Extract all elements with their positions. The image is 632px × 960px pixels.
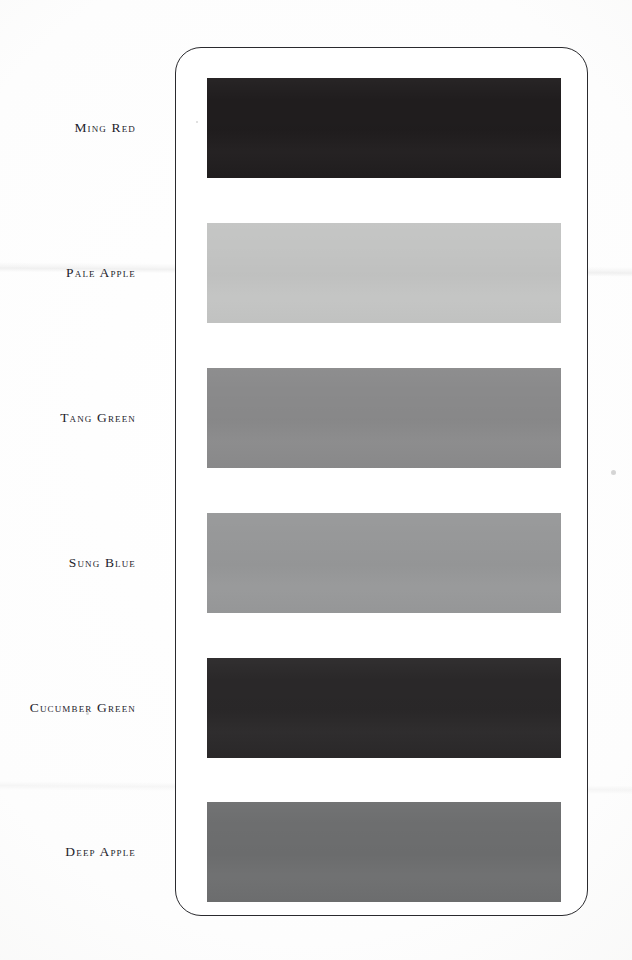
swatch-label: Deep Apple [0,802,136,902]
swatch-color-chip [207,368,561,468]
swatch-row: Sung Blue [0,513,632,613]
swatch-row: Pale Apple [0,223,632,323]
swatch-row: Deep Apple [0,802,632,902]
swatch-label: Tang Green [0,368,136,468]
swatch-row: Cucumber Green [0,658,632,758]
swatch-label: Ming Red [0,78,136,178]
swatch-color-chip [207,658,561,758]
swatch-row: Ming Red [0,78,632,178]
swatch-label: Sung Blue [0,513,136,613]
swatch-row: Tang Green [0,368,632,468]
swatch-label: Cucumber Green [0,658,136,758]
swatch-color-chip [207,802,561,902]
swatch-label: Pale Apple [0,223,136,323]
swatch-plate-page: Ming RedPale AppleTang GreenSung BlueCuc… [0,0,632,960]
swatch-color-chip [207,223,561,323]
swatch-color-chip [207,78,561,178]
swatch-color-chip [207,513,561,613]
